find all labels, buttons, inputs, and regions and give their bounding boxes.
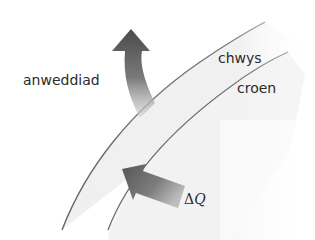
- sweat-label: chwys: [218, 51, 262, 65]
- heat-delta-label: ΔQ: [184, 192, 206, 206]
- skin-heat-diagram: anweddiad chwys croen ΔQ: [0, 0, 315, 240]
- fade-overlay: [220, 120, 315, 240]
- evaporation-arrow: [112, 29, 155, 118]
- diagram-canvas: [0, 0, 315, 240]
- delta-symbol: Δ: [184, 191, 194, 207]
- skin-label: croen: [237, 81, 276, 95]
- evaporation-label: anweddiad: [23, 73, 100, 87]
- heat-q-symbol: Q: [194, 191, 205, 207]
